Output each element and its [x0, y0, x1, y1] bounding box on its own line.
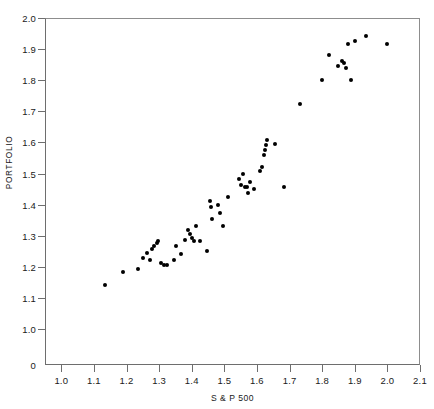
y-axis-tick-label: 1.3: [0, 231, 36, 241]
y-axis-tick-label: 2.0: [0, 14, 36, 24]
y-axis-title: PORTFOLIO: [5, 128, 14, 198]
x-axis-tick: [224, 365, 225, 372]
y-axis-tick: [38, 174, 45, 175]
y-axis-tick: [38, 329, 45, 330]
y-axis-tick: [38, 267, 45, 268]
scatter-chart: 01.01.11.21.31.41.51.61.71.81.92.0 1.01.…: [0, 0, 434, 409]
y-axis-tick-label: 1.0: [0, 325, 36, 335]
y-axis-tick-label: 1.2: [0, 262, 36, 272]
y-axis-tick: [38, 49, 45, 50]
x-axis-tick: [355, 365, 356, 372]
y-axis-tick: [38, 236, 45, 237]
y-axis-tick-label: 1.7: [0, 107, 36, 117]
x-axis-tick: [420, 365, 421, 372]
x-axis-tick: [94, 365, 95, 372]
x-axis-tick-label: 2.1: [400, 376, 434, 386]
plot-frame: [45, 18, 420, 365]
x-axis-tick: [159, 365, 160, 372]
x-axis-tick: [322, 365, 323, 372]
y-axis-tick-label: 0: [0, 361, 36, 371]
y-axis-tick: [38, 142, 45, 143]
y-axis-tick: [38, 80, 45, 81]
y-axis-tick-label: 1.9: [0, 45, 36, 55]
y-axis-tick-label: 1.8: [0, 76, 36, 86]
y-axis-tick: [38, 298, 45, 299]
x-axis-title: S & P 500: [45, 393, 420, 403]
x-axis-tick: [257, 365, 258, 372]
x-axis-tick: [290, 365, 291, 372]
x-axis-tick: [387, 365, 388, 372]
x-axis-tick: [192, 365, 193, 372]
y-axis-tick: [38, 18, 45, 19]
y-axis-tick-label: 1.4: [0, 200, 36, 210]
y-axis-tick-label: 1.1: [0, 293, 36, 303]
y-axis-tick: [38, 111, 45, 112]
x-axis-tick: [127, 365, 128, 372]
y-axis-tick: [38, 205, 45, 206]
x-axis-tick: [61, 365, 62, 372]
